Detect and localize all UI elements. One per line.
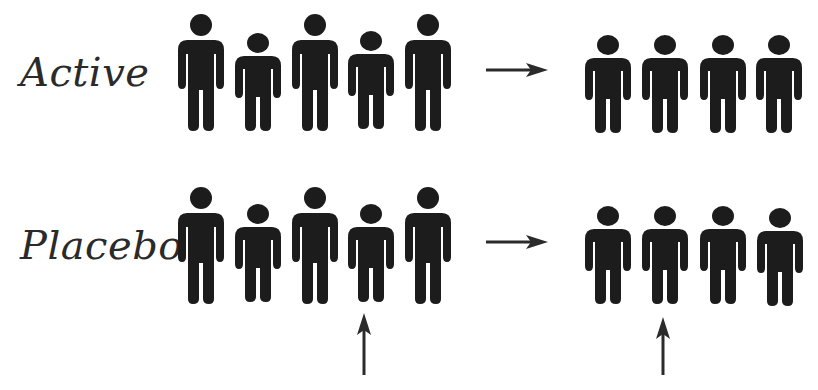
person-icon	[642, 206, 688, 304]
person-icon	[642, 35, 688, 133]
up-arrow-icon	[655, 317, 671, 375]
person-icon	[585, 206, 631, 304]
person-icon	[235, 33, 281, 131]
person-icon	[405, 14, 451, 131]
person-icon	[348, 204, 394, 302]
person-icon	[292, 187, 338, 304]
row-label-active: Active	[20, 52, 149, 92]
person-icon	[700, 206, 746, 304]
person-icon	[178, 187, 224, 304]
person-icon	[757, 208, 803, 306]
row-label-placebo: Placebo	[20, 225, 183, 265]
up-arrow-icon	[356, 313, 372, 375]
person-icon	[585, 35, 631, 133]
right-arrow-icon	[486, 62, 548, 78]
person-icon	[405, 187, 451, 304]
person-icon	[756, 35, 802, 133]
person-icon	[292, 14, 338, 131]
right-arrow-icon	[486, 234, 548, 250]
person-icon	[348, 31, 394, 129]
person-icon	[178, 14, 224, 131]
person-icon	[235, 204, 281, 302]
person-icon	[700, 35, 746, 133]
